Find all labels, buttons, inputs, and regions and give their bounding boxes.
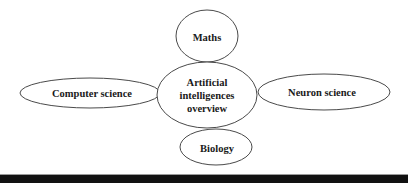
center-label-line-3: overview [180, 102, 235, 115]
neuron-science-label: Neuron science [288, 86, 356, 99]
mind-map-diagram: Maths Computer science Neuron science Bi… [0, 0, 408, 185]
biology-label: Biology [200, 142, 234, 155]
maths-label: Maths [193, 31, 222, 44]
center-label-line-2: intelligences [180, 89, 235, 102]
center-label: Artificial intelligences overview [180, 76, 235, 115]
bottom-divider-rule [0, 174, 408, 183]
computer-science-label: Computer science [52, 87, 132, 100]
center-label-line-1: Artificial [180, 76, 235, 89]
